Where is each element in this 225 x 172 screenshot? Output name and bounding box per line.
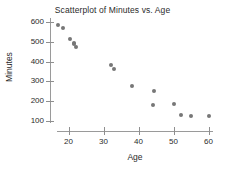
data-point xyxy=(74,45,78,49)
x-tick-label: 30 xyxy=(94,138,114,146)
data-point xyxy=(61,26,65,30)
y-tick-mark xyxy=(46,101,54,102)
x-tick-mark xyxy=(174,127,175,135)
plot-area xyxy=(51,18,219,123)
x-tick-mark xyxy=(139,127,140,135)
data-point xyxy=(179,113,183,117)
x-tick-mark xyxy=(69,127,70,135)
data-point xyxy=(172,102,176,106)
x-tick-label: 40 xyxy=(129,138,149,146)
data-point xyxy=(189,114,193,118)
chart-title: Scatterplot of Minutes vs. Age xyxy=(0,5,225,15)
x-axis-line xyxy=(57,131,213,132)
y-tick-label: 300 xyxy=(31,77,44,85)
data-point xyxy=(56,23,60,27)
y-tick-mark xyxy=(46,42,54,43)
data-point xyxy=(152,89,156,93)
y-tick-mark xyxy=(46,22,54,23)
x-tick-mark xyxy=(104,127,105,135)
data-point xyxy=(151,103,155,107)
y-tick-label: 600 xyxy=(31,18,44,26)
x-tick-label: 20 xyxy=(59,138,79,146)
x-tick-mark xyxy=(209,127,210,135)
x-axis-label: Age xyxy=(51,152,219,162)
y-tick-mark xyxy=(46,121,54,122)
y-tick-mark xyxy=(46,81,54,82)
y-tick-label: 200 xyxy=(31,97,44,105)
y-tick-label: 100 xyxy=(31,117,44,125)
scatterplot-figure: Scatterplot of Minutes vs. Age Age Minut… xyxy=(0,0,225,172)
y-tick-mark xyxy=(46,62,54,63)
y-axis-label: Minutes xyxy=(4,37,14,97)
x-tick-label: 50 xyxy=(164,138,184,146)
y-tick-label: 500 xyxy=(31,38,44,46)
y-tick-label: 400 xyxy=(31,58,44,66)
data-point xyxy=(112,67,116,71)
x-tick-label: 60 xyxy=(199,138,219,146)
data-point xyxy=(130,84,134,88)
data-point xyxy=(207,114,211,118)
